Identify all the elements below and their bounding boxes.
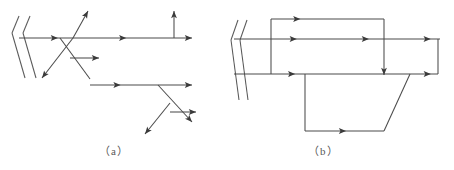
panel-a-caption: （a） [99,142,129,158]
ray-lower-down-right [158,85,192,122]
mirror-a-segment-0 [12,16,19,33]
mirror-a-segment-3 [23,33,36,78]
mirror-b-segment-2 [231,40,239,100]
mirror-b-segment-0 [231,20,238,40]
mirror-b-segment-3 [240,40,248,100]
ray-lower-down-left [145,103,170,134]
panel-b-group [231,16,440,134]
ray-up-right-branch-arrowhead-0 [82,10,91,19]
panel-b-caption: （b） [308,142,339,158]
mirror-a-segment-1 [23,16,30,33]
figure-root: （a） （b） [0,0,454,170]
mirror-a-segment-2 [12,33,25,78]
ray-b-trapezoid-slant [384,74,410,131]
mirror-b-segment-1 [240,20,247,40]
panel-a-group [12,10,196,136]
ray-diagram-canvas [0,0,454,170]
ray-down-left-branch [42,38,73,78]
